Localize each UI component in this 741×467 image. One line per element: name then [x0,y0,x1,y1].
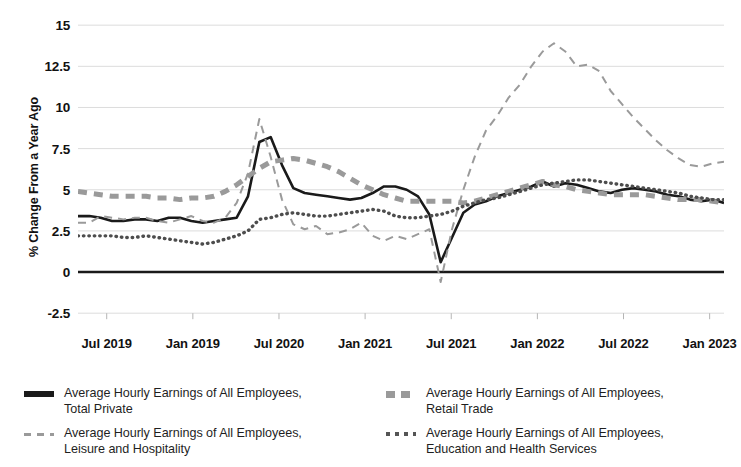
data-series-line [78,158,724,202]
chart-canvas [78,12,724,328]
legend-label-line1: Average Hourly Earnings of All Employees… [64,386,302,400]
y-axis-tick-label: 15 [8,18,70,33]
chart-legend: Average Hourly Earnings of All Employees… [24,386,724,462]
bold-dashed-line-swatch-icon [386,391,416,398]
legend-item-total-private: Average Hourly Earnings of All Employees… [24,386,374,417]
gridlines [78,25,724,313]
solid-line-swatch-icon [24,391,54,397]
thin-dashed-line-swatch-icon [24,433,54,436]
legend-label-total-private: Average Hourly Earnings of All Employees… [64,386,302,417]
x-axis-tick-marks [107,313,710,319]
legend-label-retail-trade: Average Hourly Earnings of All Employees… [426,386,664,417]
legend-item-leisure-hospitality: Average Hourly Earnings of All Employees… [24,426,374,457]
legend-label-line2: Leisure and Hospitality [64,442,190,456]
legend-label-line1: Average Hourly Earnings of All Employees… [426,426,664,440]
legend-item-education-health: Average Hourly Earnings of All Employees… [386,426,736,457]
legend-label-line2: Retail Trade [426,402,493,416]
x-axis-tick-label: Jan 2023 [655,336,741,351]
legend-label-line2: Education and Health Services [426,442,597,456]
legend-item-retail-trade: Average Hourly Earnings of All Employees… [386,386,736,417]
dotted-line-swatch-icon [386,432,416,436]
legend-label-leisure-hospitality: Average Hourly Earnings of All Employees… [64,426,302,457]
y-axis-title: % Change From a Year Ago [27,47,41,307]
data-series-group [78,43,724,282]
legend-label-line2: Total Private [64,402,133,416]
data-series-line [78,43,724,282]
plot-area [78,12,724,328]
legend-label-line1: Average Hourly Earnings of All Employees… [64,426,302,440]
legend-label-line1: Average Hourly Earnings of All Employees… [426,386,664,400]
legend-label-education-health: Average Hourly Earnings of All Employees… [426,426,664,457]
y-axis-tick-label: -2.5 [8,306,70,321]
